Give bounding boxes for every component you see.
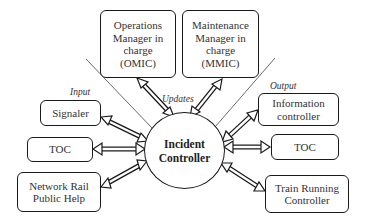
node-omic: Operations Manager in charge (OMIC) — [100, 10, 176, 78]
updates-label: Updates — [162, 94, 194, 104]
incident-control-diagram: Operations Manager in charge (OMIC) Main… — [0, 0, 366, 222]
node-toc-in: TOC — [27, 137, 93, 162]
node-info-controller: Information controller — [258, 93, 339, 126]
output-label: Output — [270, 81, 296, 91]
arrow-toc-in — [93, 143, 145, 155]
node-signaler: Signaler — [40, 100, 101, 126]
arrow-toc-out — [224, 141, 270, 153]
arrow-info-controller — [222, 110, 258, 142]
arrow-network-rail — [101, 160, 147, 188]
node-train-running: Train Running Controller — [265, 175, 349, 213]
input-label: Input — [70, 87, 90, 97]
node-network-rail: Network Rail Public Help — [17, 172, 101, 212]
node-incident-controller: Incident Controller — [144, 112, 225, 189]
node-mmic: Maintenance Manager in charge (MMIC) — [182, 10, 259, 78]
arrow-signaler — [101, 116, 148, 142]
node-toc-out: TOC — [271, 134, 339, 160]
arrow-train-running — [221, 163, 265, 191]
arrow-mmic — [190, 79, 222, 117]
